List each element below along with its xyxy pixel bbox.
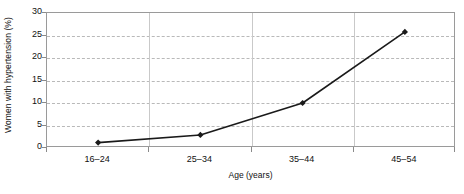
plot-area bbox=[46, 12, 455, 147]
x-axis-tick-label: 25–34 bbox=[148, 153, 250, 165]
x-axis-tickmark bbox=[46, 147, 47, 152]
x-axis-tick-label: 45–54 bbox=[353, 153, 455, 165]
x-axis-tickmark bbox=[148, 147, 149, 152]
data-point-marker bbox=[197, 132, 203, 138]
x-axis-tick-label: 35–44 bbox=[251, 153, 353, 165]
chart-screenshot: Women with hypertension (%) 051015202530… bbox=[0, 0, 464, 194]
x-axis-tickmark bbox=[454, 147, 455, 152]
x-axis-tick-label: 16–24 bbox=[46, 153, 148, 165]
x-axis-title: Age (years) bbox=[46, 170, 455, 180]
series-polyline bbox=[98, 32, 405, 143]
x-axis-tick-labels: 16–2425–3435–4445–54 bbox=[46, 153, 455, 167]
x-axis-tickmark bbox=[353, 147, 354, 152]
x-axis-title-text: Age (years) bbox=[229, 170, 273, 180]
x-axis-tickmark bbox=[251, 147, 252, 152]
data-point-marker bbox=[95, 140, 101, 146]
series-line bbox=[47, 13, 456, 148]
